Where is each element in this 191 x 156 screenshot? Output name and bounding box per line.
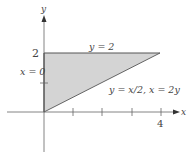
y-tick-label-2: 2 (32, 47, 39, 60)
top-boundary-label: y = 2 (88, 41, 114, 52)
left-boundary-label: x = 0 (20, 66, 45, 77)
x-axis-arrow-icon (173, 110, 180, 115)
region-diagram: y x 2 4 y = 2 x = 0 y = x/2, x = 2y (0, 0, 191, 156)
diagonal-boundary-label: y = x/2, x = 2y (108, 84, 180, 95)
x-tick-label-4: 4 (157, 118, 163, 129)
x-axis-label: x (181, 107, 186, 117)
y-axis-label: y (40, 4, 47, 14)
y-axis-arrow-icon (42, 15, 47, 22)
